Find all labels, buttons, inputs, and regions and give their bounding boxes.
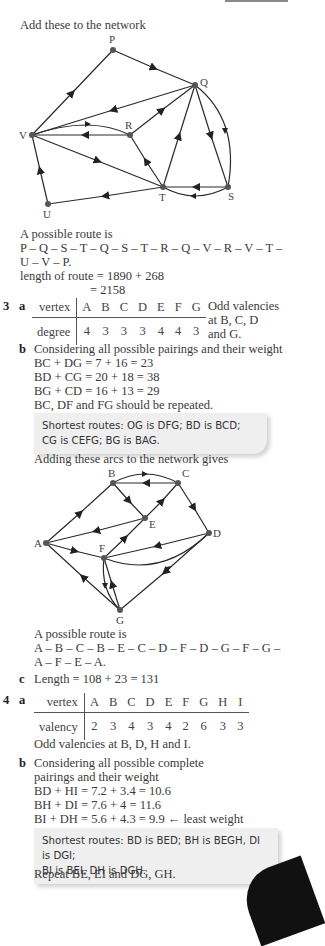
part-label-c: c bbox=[19, 672, 25, 687]
table-cell: E bbox=[152, 298, 170, 318]
part-label-a: a bbox=[19, 693, 25, 708]
table-cell: 4 bbox=[152, 318, 170, 346]
table-cell: C bbox=[115, 298, 133, 318]
table-cell: 3 bbox=[104, 713, 122, 741]
node-label-g: G bbox=[116, 614, 124, 625]
route-line-1: A – B – C – B – E – C – D – F – D – G – … bbox=[34, 641, 280, 656]
table-cell: D bbox=[133, 298, 152, 318]
node-label-p: P bbox=[109, 33, 115, 45]
pairings-intro: Considering all possible pairings and th… bbox=[34, 342, 283, 357]
table-cell: F bbox=[177, 693, 194, 713]
table-cell: 3 bbox=[96, 318, 114, 346]
table-cell: 2 bbox=[84, 713, 104, 741]
node-label-b: B bbox=[108, 467, 115, 479]
table-cell: A bbox=[84, 693, 104, 713]
route-line-2: A – F – E – A. bbox=[34, 655, 106, 670]
odd-valencies-text: Odd valencies at B, D, H and I. bbox=[34, 737, 191, 752]
valency-table: vertex A B C D E F G H I valency 2 3 4 3… bbox=[34, 693, 249, 740]
node-label-u: U bbox=[43, 208, 51, 220]
table-cell: 3 bbox=[213, 713, 232, 741]
question-number-4: 4 bbox=[3, 693, 9, 708]
table-cell: D bbox=[141, 693, 160, 713]
pairing-line: BD + HI = 7.2 + 3.4 = 10.6 bbox=[34, 784, 171, 799]
shortest-routes-note: Shortest routes: OG is DFG; BD is BCD; C… bbox=[34, 413, 267, 454]
table-cell: C bbox=[122, 693, 140, 713]
route-length-2: = 2158 bbox=[90, 283, 125, 298]
odd-valencies-note-1: Odd valencies bbox=[208, 299, 279, 314]
pairing-line: BG + CD = 16 + 13 = 29 bbox=[34, 384, 159, 399]
pairing-line: BH + DI = 7.6 + 4 = 11.6 bbox=[34, 798, 161, 813]
part-label-b: b bbox=[19, 756, 26, 771]
repeat-text: Repeat BE, EI and DG, GH. bbox=[34, 867, 176, 882]
node-label-q: Q bbox=[200, 76, 208, 88]
node-label-t: T bbox=[159, 191, 166, 203]
table-cell: A bbox=[77, 298, 97, 318]
table-cell: B bbox=[96, 298, 114, 318]
table-cell: 4 bbox=[170, 318, 187, 346]
table-header-vertex: vertex bbox=[32, 298, 77, 318]
node-label-d: D bbox=[213, 527, 221, 539]
table-cell: G bbox=[187, 298, 206, 318]
node-label-a: A bbox=[34, 537, 42, 549]
node-label-c: C bbox=[182, 467, 189, 479]
note-line: Shortest routes: BD is BED; BH is BEGH, … bbox=[42, 833, 268, 863]
part-label-b: b bbox=[19, 342, 26, 357]
table-cell: H bbox=[213, 693, 232, 713]
odd-valencies-note-3: and G. bbox=[208, 327, 241, 342]
table-header-valency: valency bbox=[34, 713, 84, 741]
pairings-intro-1: Considering all possible complete bbox=[34, 756, 204, 771]
route-line-1: P – Q – S – T – Q – S – T – R – Q – V – … bbox=[20, 241, 282, 256]
odd-valencies-note-2: at B, C, D bbox=[208, 313, 258, 328]
table-cell: G bbox=[194, 693, 213, 713]
table-cell: 2 bbox=[177, 713, 194, 741]
table-cell: 6 bbox=[194, 713, 213, 741]
node-label-r: R bbox=[125, 119, 133, 131]
pairing-line: BI + DH = 5.6 + 4.3 = 9.9 ← least weight bbox=[34, 812, 243, 827]
table-header-vertex: vertex bbox=[34, 693, 84, 713]
pairing-line: BC + DG = 7 + 16 = 23 bbox=[34, 356, 153, 371]
route-intro: A possible route is bbox=[20, 227, 113, 242]
note-line: CG is CEFG; BG is BAG. bbox=[42, 433, 257, 448]
table-cell: 3 bbox=[141, 713, 160, 741]
network-diagram-1: P Q R V T S U bbox=[0, 0, 295, 225]
pairing-line: BD + CG = 20 + 18 = 38 bbox=[34, 370, 159, 385]
table-cell: E bbox=[160, 693, 178, 713]
table-cell: F bbox=[170, 298, 187, 318]
question-number-3: 3 bbox=[3, 299, 9, 314]
network-diagram-2: B C E A D F G bbox=[0, 465, 295, 625]
table-cell: I bbox=[232, 693, 248, 713]
node-label-e: E bbox=[149, 518, 156, 530]
node-label-f: F bbox=[99, 542, 105, 554]
degree-table: vertex A B C D E F G degree 4 3 3 3 4 4 … bbox=[32, 298, 206, 345]
table-cell: 4 bbox=[122, 713, 140, 741]
pairings-intro-2: pairings and their weight bbox=[34, 770, 159, 785]
route-length-1: length of route = 1890 + 268 bbox=[20, 269, 164, 284]
node-label-s: S bbox=[228, 190, 234, 202]
table-cell: 3 bbox=[187, 318, 206, 346]
table-cell: 3 bbox=[133, 318, 152, 346]
length-text: Length = 108 + 23 = 131 bbox=[34, 672, 159, 687]
table-cell: 4 bbox=[77, 318, 97, 346]
table-cell: B bbox=[104, 693, 122, 713]
node-label-v: V bbox=[19, 129, 27, 141]
table-cell: 3 bbox=[232, 713, 248, 741]
note-line: Shortest routes: OG is DFG; BD is BCD; bbox=[42, 418, 257, 433]
table-cell: 4 bbox=[160, 713, 178, 741]
repeat-text: BC, DF and FG should be repeated. bbox=[34, 398, 213, 413]
table-header-degree: degree bbox=[32, 318, 77, 346]
table-cell: 3 bbox=[115, 318, 133, 346]
part-label-a: a bbox=[19, 299, 25, 314]
route-intro-2: A possible route is bbox=[34, 627, 127, 642]
route-line-2: U – V – P. bbox=[20, 255, 71, 270]
